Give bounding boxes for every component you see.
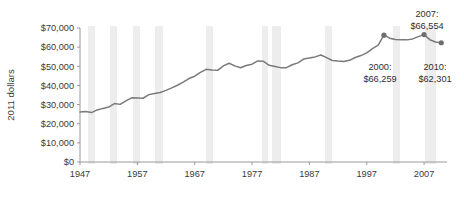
y-tick-label: $10,000 — [41, 138, 74, 148]
x-tick-label: 1967 — [184, 169, 204, 179]
x-tick-label: 1957 — [127, 169, 147, 179]
recession-band — [88, 26, 95, 164]
recession-band — [393, 26, 400, 164]
y-tick-label: $40,000 — [41, 81, 74, 91]
x-tick-label: 1987 — [299, 169, 319, 179]
data-point-marker — [421, 32, 426, 37]
y-axis-title-text: 2011 dollars — [5, 69, 16, 121]
recession-band — [155, 26, 163, 164]
y-tick-label: $60,000 — [41, 42, 74, 52]
recession-band — [133, 26, 140, 164]
x-axis-tick-labels: 1947195719671977198719972007 — [70, 169, 435, 179]
recession-band — [272, 26, 281, 164]
data-point-marker — [381, 33, 386, 38]
recession-band — [206, 26, 213, 164]
chart-container: $0$10,000$20,000$30,000$40,000$50,000$60… — [0, 0, 464, 197]
income-line-chart: $0$10,000$20,000$30,000$40,000$50,000$60… — [0, 0, 464, 197]
recession-band — [110, 26, 117, 164]
annotation-value: $62,301 — [418, 74, 451, 84]
x-tick-label: 2007 — [414, 169, 434, 179]
y-axis-title: 2011 dollars — [5, 69, 16, 121]
annotation-year: 2007: — [416, 9, 439, 19]
recession-band — [262, 26, 268, 164]
recession-bands-group — [88, 26, 436, 164]
annotation-value: $66,259 — [363, 74, 396, 84]
x-tick-label: 1977 — [242, 169, 262, 179]
y-tick-label: $50,000 — [41, 62, 74, 72]
y-axis-tick-labels: $0$10,000$20,000$30,000$40,000$50,000$60… — [41, 23, 74, 167]
x-tick-label: 1947 — [70, 169, 90, 179]
annotation-year: 2000: — [369, 62, 392, 72]
y-tick-label: $0 — [64, 157, 74, 167]
annotation-year: 2010: — [424, 62, 447, 72]
y-tick-label: $20,000 — [41, 119, 74, 129]
y-tick-label: $70,000 — [41, 23, 74, 33]
y-tick-label: $30,000 — [41, 100, 74, 110]
annotation-value: $66,554 — [410, 21, 443, 31]
recession-band — [325, 26, 332, 164]
recession-band — [425, 26, 436, 164]
data-point-marker — [439, 40, 444, 45]
x-tick-label: 1997 — [356, 169, 376, 179]
